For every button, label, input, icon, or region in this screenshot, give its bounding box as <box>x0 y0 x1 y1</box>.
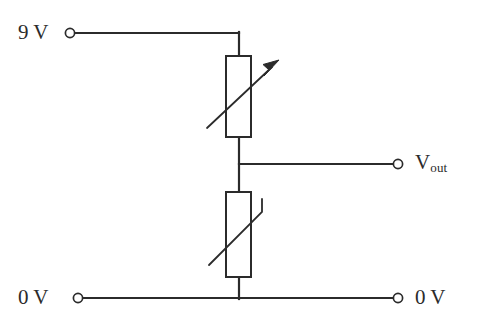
label-ground-right: 0 V <box>415 287 446 308</box>
terminal-ground-left[interactable] <box>73 293 82 302</box>
terminal-ground-right[interactable] <box>393 293 402 302</box>
variable-resistor-symbol[interactable] <box>207 56 279 137</box>
label-ground-left: 0 V <box>18 287 49 308</box>
circuit-schematic <box>0 0 480 326</box>
circuit-diagram-canvas: 9 V 0 V 0 V Vout <box>0 0 480 326</box>
variable-resistor-arrowhead <box>263 60 279 76</box>
terminal-supply-9v[interactable] <box>65 28 74 37</box>
label-vout-main: V <box>415 150 430 174</box>
label-vout: Vout <box>415 152 447 174</box>
label-supply-voltage: 9 V <box>18 22 49 43</box>
thermistor-symbol[interactable] <box>209 192 262 277</box>
terminal-vout[interactable] <box>393 159 402 168</box>
variable-resistor-body <box>226 56 251 137</box>
label-vout-subscript: out <box>430 160 447 175</box>
